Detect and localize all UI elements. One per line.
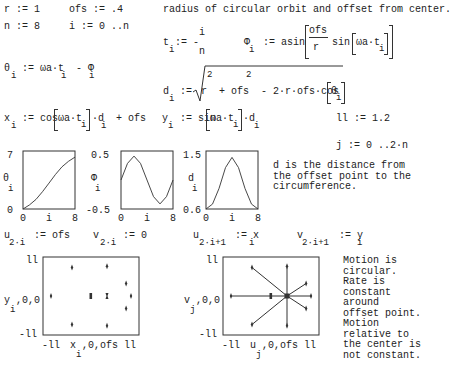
d-ymax: 1.5 [183,150,201,161]
svg-text:0: 0 [20,213,26,224]
orbit-scatter-chart: ll -ll y ,0,0 i -ll ll x ,0,ofs i [0,252,150,367]
theta-ymin: 0 [7,205,13,216]
svg-text:ll: ll [124,340,136,351]
t-den: n [199,46,205,57]
motion-note: Motion is circular. Rate is constant aro… [343,256,421,361]
phi-bracket-close [389,25,393,59]
svg-text:8: 8 [72,213,78,224]
y-bracket-close [238,109,242,131]
phi-ylabel: Φ [91,173,97,184]
theta-sub1: i [11,72,16,81]
svg-text:-ll: -ll [199,329,217,340]
u-odd-x-sub: i [249,239,254,248]
svg-text:-ll: -ll [222,340,240,351]
d-expr: r + ofs - 2·r·ofs·cos [201,86,339,97]
svg-text:8: 8 [255,213,261,224]
phi-inner-bracket-close [384,33,388,55]
d-ymin: 0.6 [183,205,201,216]
svg-text:0: 0 [203,213,209,224]
x-inner: ωa·t [58,113,82,124]
x-tail-sub: i [101,122,106,131]
svg-text:j: j [256,350,261,360]
phi-ymin: -0.5 [86,205,110,216]
t-num: i [199,27,205,38]
svg-text:-ll: -ll [19,329,37,340]
d-bracket-close [341,82,345,104]
theta-ylabel: θ [3,173,9,184]
v-odd-sub: 2·i+1 [302,239,329,248]
svg-text:0: 0 [118,213,124,224]
def-j-range: j := 0 ..2·n [336,140,408,151]
theta-ylabel-sub: i [8,184,13,194]
d-sup-ofs: 2 [246,71,251,80]
phi-assign: := asin [263,37,305,48]
d-sub: i [169,95,174,104]
u-even-sub: 2·i [9,239,25,248]
def-ll: ll := 1.2 [336,113,390,124]
svg-text:ll: ll [304,340,316,351]
description-text: radius of circular orbit and offset from… [163,4,451,15]
def-n: n := 8 [4,21,40,32]
theta-sub3: i [89,72,94,81]
d-ylabel: d [188,173,194,184]
def-i-range: i := 0 ..n [69,21,129,32]
svg-text:j: j [190,305,195,315]
x-sub: i [11,122,16,131]
svg-text:i: i [46,213,52,224]
d-assign: := [180,86,192,97]
phi-frac-line [309,37,328,38]
svg-text:i: i [192,184,197,194]
u-odd-sub: 2·i+1 [199,239,226,248]
phi-sin: sin [332,37,350,48]
svg-text:8: 8 [170,213,176,224]
theta-def: θ := ωa·t - Φ [4,63,94,74]
t-assign: := - [175,37,199,48]
def-r: r := 1 [4,4,40,15]
def-ofs: ofs := .4 [69,4,123,15]
y-sub: i [168,122,173,131]
v-even-sub: 2·i [100,239,116,248]
d-line [206,157,258,209]
v-odd-y-sub: i [357,239,362,248]
d-chart: 1.5 0.6 d i 0 i 8 [180,146,270,224]
phi-sub: i [249,46,254,55]
svg-text:i: i [76,350,81,360]
d-sup-r: 2 [207,71,212,80]
phi-frac-den: r [313,42,319,53]
x-bracket-close [86,109,90,131]
sqrt-sign [193,64,348,104]
t-sub: i [169,46,174,55]
y-tail-sub: i [254,122,259,131]
d-note: d is the distance from the offset point … [273,161,411,193]
svg-text:ll: ll [206,255,218,266]
phi-line [121,156,173,204]
theta-sub2: i [61,72,66,81]
svg-text:ll: ll [26,255,38,266]
spokes-chart: ll -ll v ,0,0 j -ll ll u ,0,ofs j [180,252,330,367]
theta-line [23,157,75,209]
scatter-points [50,263,132,329]
phi-inner: ωa·t [356,37,380,48]
svg-text:-ll: -ll [42,340,60,351]
phi-ymax: 0.5 [91,150,109,161]
svg-text:i: i [95,184,100,194]
svg-text:i: i [10,305,15,315]
y-inner: ωa·t [210,113,234,124]
phi-chart: 0.5 -0.5 Φ i 0 i 8 [80,146,180,224]
phi-frac-num: ofs [309,25,327,36]
theta-ymax: 7 [7,150,13,161]
theta-chart: 7 0 θ i 0 i 8 [0,146,90,224]
svg-text:i: i [144,213,150,224]
svg-text:i: i [229,213,235,224]
